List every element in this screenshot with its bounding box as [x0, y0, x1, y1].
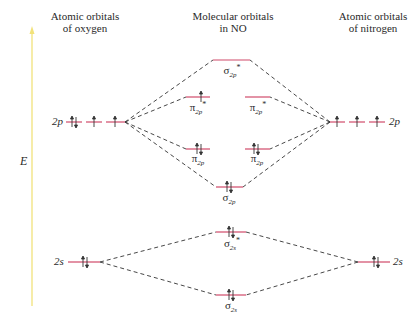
pi2p-star-b-label: π2p*	[238, 100, 278, 116]
correlation-lines	[100, 60, 358, 295]
molecular-orbital-levels	[186, 60, 270, 295]
pi2p-a-label: π2p	[178, 152, 218, 167]
oxygen-2p-label: 2p	[52, 115, 63, 127]
sigma2s-label: σ2s	[211, 299, 251, 314]
energy-arrow	[30, 26, 35, 306]
pi2p-b-label: π2p	[237, 152, 277, 167]
oxygen-2s-label: 2s	[54, 255, 64, 267]
nitrogen-2p-label: 2p	[389, 115, 400, 127]
sigma2p-star-label: σ2p*	[212, 63, 252, 79]
pi2p-star-a-label: π2p*	[178, 100, 218, 116]
nitrogen-2s-label: 2s	[393, 255, 403, 267]
sigma2s-star-label: σ2s*	[212, 236, 252, 252]
sigma2p-label: σ2p	[209, 191, 249, 206]
